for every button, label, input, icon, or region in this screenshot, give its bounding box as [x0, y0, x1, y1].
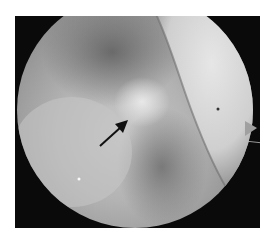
arrow-annotation	[0, 0, 270, 243]
